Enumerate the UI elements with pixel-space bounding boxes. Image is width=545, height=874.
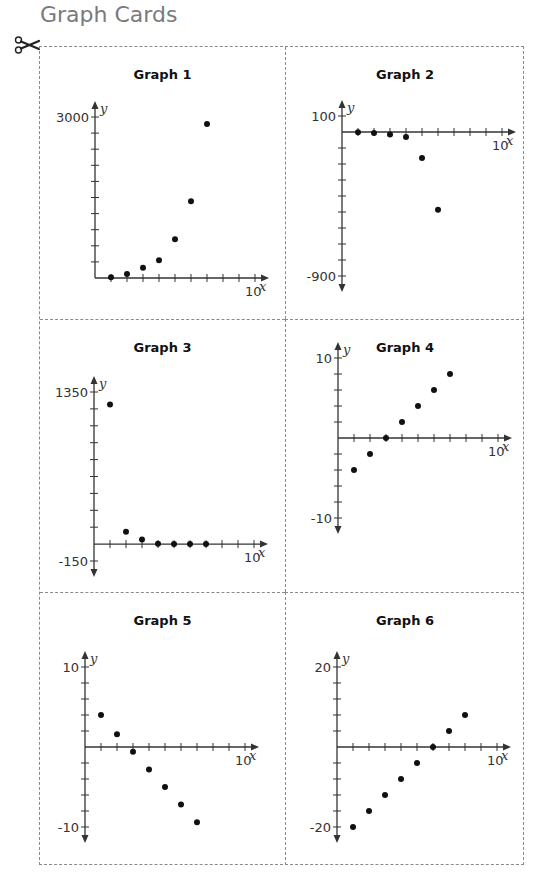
- graph-card-grid: Graph 1 10x3000y Graph 2 10x100-900y Gra…: [39, 46, 524, 865]
- y-min-label: -10: [311, 511, 332, 526]
- data-points: [107, 401, 209, 547]
- y-axis-label: y: [341, 651, 350, 666]
- graph-6-plot: 10x20-20y: [286, 593, 525, 866]
- data-point: [146, 766, 152, 772]
- y-min-label: -10: [58, 820, 79, 835]
- y-axis-arrow-down-icon: [334, 835, 341, 843]
- data-point: [462, 712, 468, 718]
- y-axis-arrow-up-icon: [91, 376, 98, 384]
- graph-card-3: Graph 3 10x1350-150y: [40, 319, 285, 592]
- graph-1-plot: 10x3000y: [40, 47, 285, 319]
- page-title: Graph Cards: [40, 2, 177, 27]
- data-point: [108, 274, 114, 280]
- data-points: [98, 712, 200, 825]
- data-point: [114, 731, 120, 737]
- data-point: [447, 371, 453, 377]
- data-points: [351, 371, 453, 473]
- y-axis: 3000y: [56, 101, 108, 278]
- data-point: [435, 207, 441, 213]
- data-points: [108, 121, 210, 280]
- graph-card-6: Graph 6 10x20-20y: [285, 592, 524, 865]
- y-min-label: -20: [310, 820, 331, 835]
- y-axis-arrow-up-icon: [334, 651, 341, 659]
- y-axis-arrow-down-icon: [335, 526, 342, 534]
- data-point: [446, 728, 452, 734]
- data-point: [162, 784, 168, 790]
- graph-card-2: Graph 2 10x100-900y: [285, 47, 524, 319]
- y-axis-arrow-up-icon: [92, 101, 99, 109]
- data-point: [351, 467, 357, 473]
- y-max-label: 3000: [56, 110, 89, 125]
- y-min-label: -900: [306, 269, 336, 284]
- y-min-label: -150: [58, 554, 88, 569]
- y-max-label: 100: [311, 109, 336, 124]
- data-points: [350, 712, 468, 830]
- y-axis-label: y: [89, 651, 98, 666]
- graph-4-plot: 10x10-10y: [286, 320, 525, 593]
- data-point: [387, 131, 393, 137]
- data-point: [171, 541, 177, 547]
- data-point: [431, 387, 437, 393]
- data-point: [204, 121, 210, 127]
- data-point: [187, 541, 193, 547]
- data-point: [124, 271, 130, 277]
- data-point: [414, 760, 420, 766]
- x-axis: 10x: [85, 743, 259, 768]
- data-point: [139, 537, 145, 543]
- y-axis-label: y: [98, 376, 107, 391]
- data-point: [371, 130, 377, 136]
- data-point: [98, 712, 104, 718]
- x-axis: 10x: [94, 540, 268, 565]
- y-axis: 100-900y: [306, 100, 355, 292]
- data-point: [366, 808, 372, 814]
- data-point: [123, 529, 129, 535]
- data-points: [355, 129, 441, 212]
- x-axis: 10x: [338, 434, 512, 459]
- data-point: [415, 403, 421, 409]
- y-axis-arrow-down-icon: [91, 569, 98, 577]
- data-point: [367, 451, 373, 457]
- y-max-label: 10: [62, 660, 79, 675]
- data-point: [194, 819, 200, 825]
- graph-card-5: Graph 5 10x10-10y: [40, 592, 285, 865]
- x-axis-label: x: [258, 545, 266, 560]
- x-axis-label: x: [502, 439, 510, 454]
- x-axis-label: x: [249, 748, 257, 763]
- graph-card-4: Graph 4 10x10-10y: [285, 319, 524, 592]
- data-point: [419, 155, 425, 161]
- y-axis-arrow-up-icon: [82, 651, 89, 659]
- data-point: [172, 236, 178, 242]
- data-point: [156, 257, 162, 263]
- x-axis-label: x: [259, 279, 267, 294]
- x-axis-label: x: [506, 133, 514, 148]
- scissors-icon: [14, 36, 40, 54]
- data-point: [399, 419, 405, 425]
- data-point: [382, 792, 388, 798]
- x-axis: 10x: [95, 274, 269, 299]
- x-axis: 10x: [342, 128, 516, 153]
- graph-5-plot: 10x10-10y: [40, 593, 285, 866]
- x-axis: 10x: [337, 743, 511, 768]
- graph-2-plot: 10x100-900y: [286, 47, 525, 319]
- data-point: [355, 129, 361, 135]
- y-max-label: 10: [315, 351, 332, 366]
- graph-3-plot: 10x1350-150y: [40, 320, 285, 593]
- data-point: [350, 824, 356, 830]
- data-point: [383, 435, 389, 441]
- y-axis-label: y: [342, 342, 351, 357]
- graph-card-1: Graph 1 10x3000y: [40, 47, 285, 319]
- y-axis-label: y: [99, 101, 108, 116]
- y-axis-label: y: [346, 100, 355, 115]
- y-max-label: 1350: [55, 385, 88, 400]
- data-point: [203, 541, 209, 547]
- y-axis-arrow-down-icon: [339, 284, 346, 292]
- y-max-label: 20: [314, 660, 331, 675]
- data-point: [178, 802, 184, 808]
- x-axis-label: x: [501, 748, 509, 763]
- data-point: [188, 198, 194, 204]
- data-point: [430, 744, 436, 750]
- data-point: [140, 265, 146, 271]
- y-axis-arrow-down-icon: [82, 835, 89, 843]
- y-axis: 1350-150y: [55, 376, 107, 577]
- data-point: [398, 776, 404, 782]
